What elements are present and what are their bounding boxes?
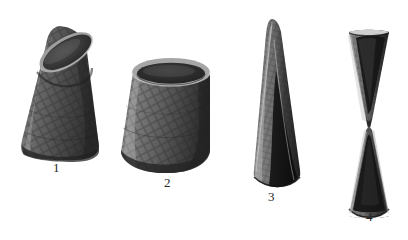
object-label-1: 1	[53, 161, 60, 174]
object-2-truncated-cone-upright	[121, 58, 210, 173]
object-label-2: 2	[164, 176, 171, 189]
photographic-plate: 1 2 3 4 Conical woven vessels plate	[0, 0, 408, 240]
plate-illustration	[0, 0, 408, 240]
object-label-4: 4	[366, 210, 373, 223]
object-label-3: 3	[268, 190, 275, 203]
